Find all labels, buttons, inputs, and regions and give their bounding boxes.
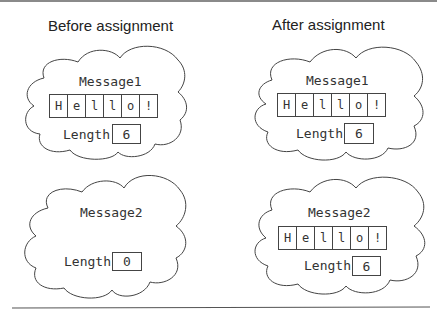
char-cell: l <box>332 94 350 116</box>
length-value: 0 <box>112 252 142 271</box>
length-label: Length <box>296 126 343 141</box>
variable-name: Message2 <box>80 205 143 220</box>
char-cell: H <box>278 94 296 116</box>
length-label: Length <box>63 127 110 142</box>
char-cell: l <box>86 95 104 117</box>
char-cell: e <box>296 94 314 116</box>
char-cell: l <box>333 227 351 249</box>
char-array: H e l l o ! <box>49 94 158 118</box>
char-cell: ! <box>368 94 385 116</box>
char-cell: ! <box>369 227 386 249</box>
length-value: 6 <box>352 256 381 276</box>
char-cell: o <box>122 95 140 117</box>
variable-name: Message1 <box>306 73 369 88</box>
char-array: H e l l o ! <box>278 226 387 250</box>
variable-name: Message1 <box>79 74 142 89</box>
char-cell: e <box>297 227 315 249</box>
length-label: Length <box>64 254 111 269</box>
char-cell: o <box>351 227 369 249</box>
char-cell: l <box>104 95 122 117</box>
variable-name: Message2 <box>308 205 371 220</box>
length-value: 6 <box>344 123 374 144</box>
char-cell: l <box>314 94 332 116</box>
char-cell: H <box>279 227 297 249</box>
char-cell: ! <box>140 95 157 117</box>
char-cell: e <box>68 95 86 117</box>
length-value: 6 <box>112 124 141 144</box>
char-cell: H <box>50 95 68 117</box>
cloud-before-message2 <box>25 175 186 298</box>
char-cell: o <box>350 94 368 116</box>
length-label: Length <box>304 258 351 273</box>
assignment-diagram: Before assignment After assignment Messa… <box>0 0 437 322</box>
char-array: H e l l o ! <box>277 93 386 117</box>
char-cell: l <box>315 227 333 249</box>
